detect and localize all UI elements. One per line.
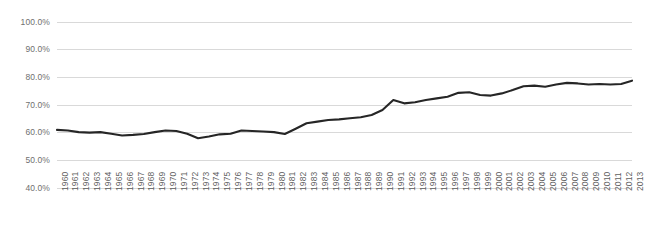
x-axis-tick-label: 1984 [321, 172, 330, 191]
x-axis-tick-label: 2001 [505, 172, 514, 191]
x-axis-tick-label: 1993 [419, 172, 428, 191]
x-axis-tick-label: 1962 [82, 172, 91, 191]
x-axis-tick-label: 2004 [538, 172, 547, 191]
x-axis-tick-label: 1985 [332, 172, 341, 191]
x-axis-tick-label: 2013 [636, 172, 645, 191]
x-axis-tick-label: 1970 [169, 172, 178, 191]
x-axis-tick-label: 1977 [245, 172, 254, 191]
x-axis-tick-label: 1960 [61, 172, 70, 191]
x-axis-tick-labels: 1960196119621963196419651966196719681969… [0, 0, 648, 230]
x-axis-tick-label: 1969 [158, 172, 167, 191]
x-axis-tick-label: 1976 [234, 172, 243, 191]
x-axis-tick-label: 1981 [288, 172, 297, 191]
x-axis-tick-label: 2005 [549, 172, 558, 191]
x-axis-tick-label: 2012 [625, 172, 634, 191]
x-axis-tick-label: 1966 [126, 172, 135, 191]
x-axis-tick-label: 2008 [581, 172, 590, 191]
x-axis-tick-label: 2010 [603, 172, 612, 191]
x-axis-tick-label: 1986 [343, 172, 352, 191]
x-axis-tick-label: 1979 [267, 172, 276, 191]
x-axis-tick-label: 2009 [592, 172, 601, 191]
x-axis-tick-label: 1975 [223, 172, 232, 191]
x-axis-tick-label: 1996 [451, 172, 460, 191]
x-axis-tick-label: 1964 [104, 172, 113, 191]
x-axis-tick-label: 1963 [93, 172, 102, 191]
x-axis-tick-label: 1987 [354, 172, 363, 191]
x-axis-tick-label: 1989 [375, 172, 384, 191]
x-axis-tick-label: 1988 [364, 172, 373, 191]
x-axis-tick-label: 2006 [560, 172, 569, 191]
x-axis-tick-label: 1967 [137, 172, 146, 191]
x-axis-tick-label: 1994 [429, 172, 438, 191]
x-axis-tick-label: 2002 [516, 172, 525, 191]
x-axis-tick-label: 2000 [495, 172, 504, 191]
x-axis-tick-label: 1992 [408, 172, 417, 191]
x-axis-tick-label: 1968 [147, 172, 156, 191]
x-axis-tick-label: 1983 [310, 172, 319, 191]
x-axis-tick-label: 1974 [212, 172, 221, 191]
x-axis-tick-label: 2003 [527, 172, 536, 191]
chart-container: 100.0%90.0%80.0%70.0%60.0%50.0%40.0% 196… [0, 0, 648, 230]
x-axis-tick-label: 1990 [386, 172, 395, 191]
x-axis-tick-label: 1995 [440, 172, 449, 191]
x-axis-tick-label: 1980 [278, 172, 287, 191]
x-axis-tick-label: 1972 [191, 172, 200, 191]
x-axis-tick-label: 1971 [180, 172, 189, 191]
x-axis-tick-label: 1991 [397, 172, 406, 191]
x-axis-tick-label: 1997 [462, 172, 471, 191]
x-axis-tick-label: 2007 [571, 172, 580, 191]
x-axis-tick-label: 1965 [115, 172, 124, 191]
x-axis-tick-label: 1973 [202, 172, 211, 191]
x-axis-tick-label: 1978 [256, 172, 265, 191]
x-axis-tick-label: 1961 [71, 172, 80, 191]
x-axis-tick-label: 1999 [484, 172, 493, 191]
x-axis-tick-label: 1982 [299, 172, 308, 191]
x-axis-tick-label: 1998 [473, 172, 482, 191]
x-axis-tick-label: 2011 [614, 172, 623, 191]
